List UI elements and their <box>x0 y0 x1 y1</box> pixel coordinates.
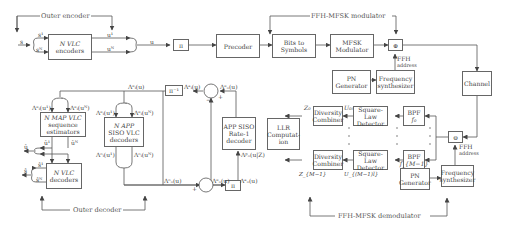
block-label: Frequency <box>379 75 412 82</box>
block-label: Detector <box>357 120 384 127</box>
block-label: Symbols <box>281 46 307 53</box>
block-label: Diversity <box>314 153 342 160</box>
signal-U0l: U₀ₗ <box>344 104 353 111</box>
app-siso-vlc-decoders-block: N APP SISO VLC decoders <box>104 117 144 147</box>
block-label: ⊕ <box>393 42 398 49</box>
section-ffh-modulator: FFH-MFSK modulator <box>310 12 387 20</box>
precoder-block: Precoder <box>216 34 260 58</box>
block-label: Square-Law <box>354 150 387 164</box>
signal-ZM1: Z_{M−1} <box>299 171 326 178</box>
block-label: N MAP VLC <box>44 114 82 121</box>
block-label: Square-Law <box>354 106 387 120</box>
diversity-combiner-m1-block: Diversity Combiner <box>313 150 343 170</box>
signal-u: u <box>150 38 154 45</box>
block-label: Channel <box>464 80 490 87</box>
channel-block: Channel <box>462 71 492 96</box>
block-label: N VLC <box>60 40 81 47</box>
block-label: Generator <box>399 179 431 186</box>
block-label: synthesizer <box>440 176 476 183</box>
pn-generator-rx-block: PN Generator <box>400 168 430 190</box>
block-label: synthesizer <box>378 82 414 89</box>
llr-computation-block: LLR Computat- ion <box>267 118 300 150</box>
diversity-combiner-0-block: Diversity Combiner <box>313 106 343 126</box>
block-label: Combiner <box>313 116 344 123</box>
block-label: Frequency <box>441 169 474 176</box>
signal-u1: u¹ <box>107 31 113 38</box>
signal-lambda-o-i-uN: Λᵒᵢ(uᴺ) <box>134 151 154 158</box>
ffh-mfsk-system-diagram: Outer encoder FFH-MFSK modulator Outer d… <box>0 0 506 227</box>
block-label: Detector <box>357 164 384 171</box>
block-label: ⊖ <box>453 134 458 141</box>
signal-ffh-address-rx: FFH address <box>459 143 479 157</box>
block-label: PN <box>410 172 420 179</box>
sign-plus-bottom: + <box>192 185 197 192</box>
signal-label: address <box>459 150 479 157</box>
signal-s-hat-N: ŝᴺ <box>36 176 42 183</box>
bits-to-symbols-block: Bits to Symbols <box>272 34 316 58</box>
signal-lambda-e-i-uN: Λᵉᵢ(uᴺ) <box>70 104 90 111</box>
app-siso-rate1-decoder-block: APP SISO Rate-1 decoder <box>222 117 256 150</box>
mfsk-modulator-block: MFSK Modulator <box>330 34 374 58</box>
block-label: π <box>231 182 235 189</box>
signal-u-hat-N: ûᴺ <box>71 139 78 146</box>
bpf-fm1-block: BPF f_{M−1} <box>403 150 425 170</box>
signal-s: s <box>20 38 23 45</box>
block-label: LLR <box>277 124 290 131</box>
signal-label: FFH <box>459 143 479 150</box>
interleaver-top-block: π <box>173 39 189 51</box>
block-label: BPF <box>407 153 420 160</box>
block-label: f_{M−1} <box>400 160 429 167</box>
section-ffh-demodulator: FFH-MFSK demodulator <box>337 212 422 220</box>
block-label: encoders <box>56 47 85 54</box>
signal-s-hat: ŝ <box>24 167 27 174</box>
pn-generator-tx-block: PN Generator <box>332 70 371 94</box>
block-label: N VLC <box>54 169 75 176</box>
signal-Z0: Z₀ <box>304 104 311 111</box>
signal-label: FFH <box>397 55 417 62</box>
block-label: sequence <box>48 121 78 128</box>
block-label: Diversity <box>314 109 342 116</box>
signal-lambda-a-i-u: Λᵃᵢ(u) <box>184 83 200 90</box>
section-outer-decoder: Outer decoder <box>72 206 123 214</box>
bpf-f0-block: BPF f₀ <box>403 106 425 126</box>
block-label: decoders <box>110 136 139 143</box>
signal-uN: uᴺ <box>107 45 114 52</box>
signal-lambda-a-o-u: Λᵃₒ(u) <box>240 177 258 184</box>
signal-lambda-e-o-u-sum: Λᵉₒ(u) <box>220 83 238 90</box>
signal-sN: sᴺ <box>36 46 42 53</box>
map-vlc-estimators-block: N MAP VLC sequence estimators <box>40 112 86 137</box>
signal-ffh-address-tx: FFH address <box>397 55 417 69</box>
block-label: BPF <box>407 109 420 116</box>
mixer-rx-block: ⊖ <box>448 131 463 143</box>
block-label: π <box>179 42 183 49</box>
signal-lambda-e-i-u-top: Λᵉᵢ(u) <box>128 83 144 90</box>
section-outer-encoder: Outer encoder <box>40 12 91 20</box>
block-label: π⁻¹ <box>169 87 179 94</box>
signal-lambda-o-o-u: Λᵒₒ(u) <box>164 177 182 184</box>
signal-u-hat-1: û¹ <box>44 139 50 146</box>
freq-synth-tx-block: Frequency synthesizer <box>376 70 415 94</box>
block-label: decoder <box>226 137 251 144</box>
freq-synth-rx-block: Frequency synthesizer <box>441 165 474 187</box>
block-label: ion <box>279 138 289 145</box>
block-label: Precoder <box>224 43 253 50</box>
sum-node-bottom <box>199 178 213 192</box>
sign-minus-top: − <box>206 96 211 103</box>
block-label: Combiner <box>313 160 344 167</box>
signal-s-hat-1: ŝ¹ <box>38 161 43 168</box>
signal-lambda-a-i-uN: Λᵉᵢ(uᴺ) <box>134 109 154 116</box>
block-label: estimators <box>46 128 79 135</box>
block-label: N APP <box>114 122 134 129</box>
square-law-detector-m1-block: Square-Law Detector <box>353 150 388 170</box>
vlc-decoders-block: N VLC decoders <box>46 163 82 189</box>
block-label: MFSK <box>342 39 362 46</box>
block-label: decoders <box>50 176 79 183</box>
mixer-tx-block: ⊕ <box>388 39 403 51</box>
block-label: Computat- <box>267 131 300 138</box>
block-label: Rate-1 <box>229 130 250 137</box>
sign-plus-top: + <box>218 93 223 100</box>
deinterleaver-block: π⁻¹ <box>165 85 183 96</box>
signal-lambda-e-o-u-bottom: Λᵉₒ(u) <box>212 177 230 184</box>
signal-lambda-a-i-u1: Λᵉᵢ(u¹) <box>96 109 115 116</box>
square-law-detector-0-block: Square-Law Detector <box>353 106 388 126</box>
